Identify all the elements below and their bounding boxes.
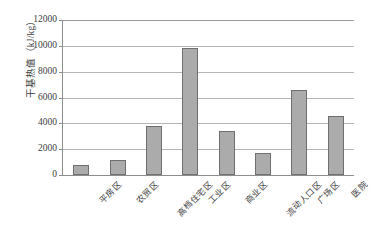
- bar: [73, 165, 89, 175]
- bar: [219, 131, 235, 175]
- x-axis-labels: 平房区农贸区高档住宅区工业区商业区流动人口区广场区医院: [62, 178, 354, 244]
- y-axis-tick-label: 2000: [38, 144, 57, 154]
- y-axis-tick-label: 4000: [38, 119, 57, 129]
- y-axis-tick-label: 12000: [33, 15, 57, 25]
- bar: [182, 48, 198, 175]
- y-axis-tick-label: 8000: [38, 67, 57, 77]
- y-axis-tick-label: 6000: [38, 93, 57, 103]
- plot-area: 020004000600080001000012000: [62, 20, 354, 176]
- y-axis-tick: [59, 175, 63, 176]
- x-axis-label: 农贸区: [134, 180, 159, 205]
- bar: [146, 126, 162, 175]
- x-axis-label: 商业区: [244, 180, 269, 205]
- bar: [110, 160, 126, 175]
- bar-chart: 干基热值（kJ/kg） 020004000600080001000012000 …: [0, 0, 375, 244]
- bar: [328, 116, 344, 175]
- x-axis-label: 平房区: [98, 180, 123, 205]
- bars-layer: [63, 20, 354, 175]
- y-axis-tick-label: 10000: [33, 41, 57, 51]
- bar: [255, 153, 271, 175]
- y-axis-tick-label: 0: [52, 170, 57, 180]
- x-axis-label: 医院: [350, 180, 369, 199]
- bar: [291, 90, 307, 175]
